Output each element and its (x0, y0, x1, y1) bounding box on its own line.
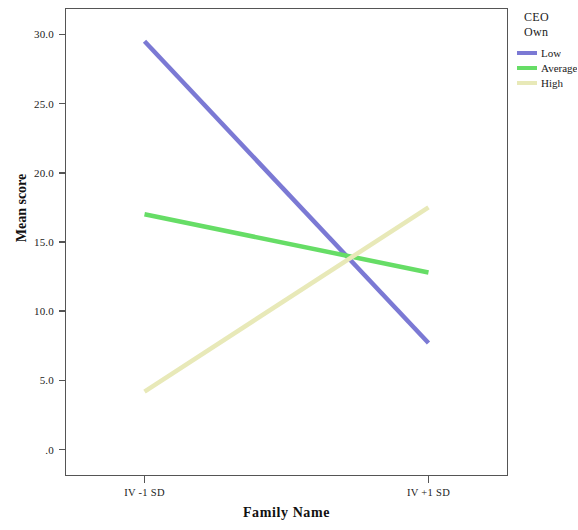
y-axis-tick-mark (59, 172, 65, 174)
legend-swatch-icon (517, 66, 537, 70)
x-axis-tick-mark (144, 476, 146, 483)
series-line-average (145, 214, 429, 272)
y-axis-tick-mark (59, 310, 65, 312)
y-axis-tick-label: 10.0 (0, 305, 54, 317)
legend-items: LowAverageHigh (517, 46, 578, 89)
legend-swatch-icon (517, 51, 537, 55)
y-axis-tick-label: 5.0 (0, 374, 54, 386)
x-axis-title: Family Name (65, 505, 508, 521)
y-axis-tick-label: .0 (0, 444, 54, 456)
y-axis-title: Mean score (14, 148, 30, 268)
legend-item-low[interactable]: Low (517, 46, 578, 59)
legend-item-label: Low (541, 47, 561, 59)
legend-swatch-icon (517, 81, 537, 85)
x-axis-tick-mark (428, 476, 430, 483)
y-axis-tick-label: 30.0 (0, 28, 54, 40)
legend-item-high[interactable]: High (517, 76, 578, 89)
line-chart: .05.010.015.020.025.030.0 Mean score IV … (0, 0, 578, 530)
y-axis-tick-mark (59, 103, 65, 105)
y-axis-tick-mark (59, 449, 65, 451)
legend-title: CEO Own (524, 10, 578, 40)
x-axis-tick-label: IV -1 SD (124, 487, 165, 498)
legend-item-label: High (541, 77, 563, 89)
x-axis-tick-label: IV +1 SD (407, 487, 450, 498)
y-axis-tick-mark (59, 34, 65, 36)
series-lines-layer (0, 0, 578, 530)
legend-item-average[interactable]: Average (517, 61, 578, 74)
legend-item-label: Average (541, 62, 577, 74)
y-axis-tick-label: 25.0 (0, 98, 54, 110)
legend-title-line-1: CEO (524, 10, 549, 24)
y-axis-tick-mark (59, 241, 65, 243)
y-axis-tick-mark (59, 380, 65, 382)
legend-title-line-2: Own (524, 25, 578, 40)
legend: CEO Own LowAverageHigh (517, 10, 578, 91)
